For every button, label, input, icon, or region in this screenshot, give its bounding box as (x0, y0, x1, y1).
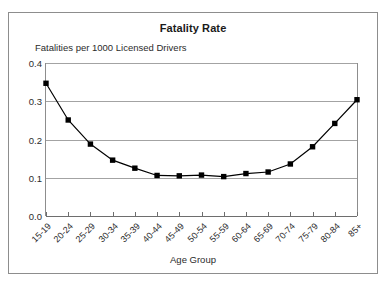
x-tick-label: 70-74 (274, 221, 297, 244)
series-polyline (46, 83, 357, 176)
data-point-marker (221, 174, 226, 179)
data-point-marker (154, 173, 159, 178)
x-tick-label: 25-29 (74, 221, 97, 244)
data-point-marker (88, 141, 93, 146)
y-tick-label: 0.2 (29, 134, 42, 145)
plot-area: 0.00.10.20.30.4 15-1920-2425-2930-3435-3… (45, 63, 358, 216)
data-point-marker (177, 173, 182, 178)
x-tick-label: 55-59 (207, 221, 230, 244)
x-tick-label: 80-84 (318, 221, 341, 244)
data-point-marker (354, 97, 359, 102)
data-point-marker (288, 161, 293, 166)
data-point-marker (43, 81, 48, 86)
y-tick-label: 0.0 (29, 211, 42, 222)
series-line-fatality-rate (46, 63, 357, 216)
x-tick-label: 15-19 (30, 221, 53, 244)
x-tick-label: 65-69 (252, 221, 275, 244)
data-point-marker (199, 172, 204, 177)
data-point-marker (243, 171, 248, 176)
data-point-marker (265, 169, 270, 174)
x-tick (357, 212, 358, 216)
x-tick-label: 75-79 (296, 221, 319, 244)
chart-title: Fatality Rate (9, 22, 377, 34)
x-tick-label: 20-24 (52, 221, 75, 244)
chart-container: Fatality Rate Fatalities per 1000 Licens… (8, 12, 378, 274)
x-tick-label: 60-64 (230, 221, 253, 244)
data-point-marker (132, 165, 137, 170)
chart-subtitle: Fatalities per 1000 Licensed Drivers (35, 42, 187, 53)
y-tick-label: 0.4 (29, 58, 42, 69)
x-tick-label: 50-54 (185, 221, 208, 244)
x-tick-label: 35-39 (119, 221, 142, 244)
y-tick-label: 0.1 (29, 172, 42, 183)
x-tick-label: 30-34 (96, 221, 119, 244)
gridline-y-0.0: 0.0 (46, 216, 357, 217)
data-point-marker (110, 157, 115, 162)
data-point-marker (66, 117, 71, 122)
x-tick-label: 40-44 (141, 221, 164, 244)
y-tick-label: 0.3 (29, 96, 42, 107)
x-tick-label: 85+ (346, 221, 364, 239)
data-point-marker (310, 144, 315, 149)
data-point-marker (332, 121, 337, 126)
x-tick-label: 45-49 (163, 221, 186, 244)
x-axis-title: Age Group (9, 254, 377, 265)
